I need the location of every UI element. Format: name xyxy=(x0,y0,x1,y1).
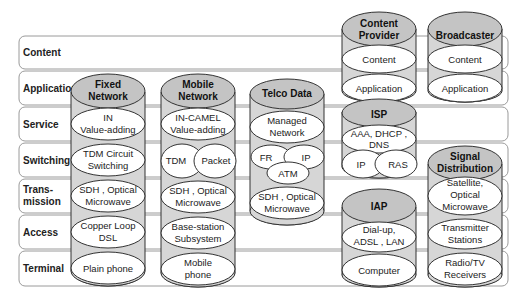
stack-iap: IAP Dial-up, ADSL , LAN Computer xyxy=(342,189,416,287)
stack-title: Signal xyxy=(450,151,480,162)
disc-text: Switching xyxy=(88,160,129,171)
disc-text: Dial-up, xyxy=(363,224,396,235)
disc-text: Copper Loop xyxy=(81,220,136,231)
disc-text: Subsystem xyxy=(175,233,222,244)
disc-text: Packet xyxy=(201,155,230,166)
stack-title: Fixed xyxy=(95,79,121,90)
disc-text: RAS xyxy=(388,159,408,170)
disc-text: SDH , Optical xyxy=(79,184,137,195)
disc-text: Value-adding xyxy=(80,124,135,135)
stack-title: ISP xyxy=(371,109,387,120)
layer-label-switching: Switching xyxy=(23,155,70,166)
stack-title-2: Network xyxy=(178,91,218,102)
disc-text: Application xyxy=(442,83,488,94)
stack-title-2: Provider xyxy=(359,30,400,41)
stack-signal-distribution: Signal Distribution Satellite, Optical M… xyxy=(428,146,502,287)
stack-mobile-network: Mobile Network IN-CAMEL Value-adding TDM… xyxy=(161,74,236,287)
disc-text: Managed xyxy=(267,115,307,126)
disc-text: SDH , Optical xyxy=(169,185,227,196)
layer-label-content: Content xyxy=(23,47,61,58)
stack-title: Content xyxy=(360,18,398,29)
disc-text: Network xyxy=(270,127,305,138)
disc-text: IN xyxy=(103,112,113,123)
disc-text: Content xyxy=(362,54,396,65)
disc-text: ADSL , LAN xyxy=(354,236,405,247)
disc-text: IP xyxy=(357,159,366,170)
layer-label-application: Application xyxy=(23,83,77,94)
network-layers-diagram: Content Application Service Switching Tr… xyxy=(0,0,527,306)
layer-label-transmission-2: mission xyxy=(23,196,61,207)
disc-text: Transmitter xyxy=(441,222,489,233)
stack-content-provider: Content Provider Content Application xyxy=(342,12,416,102)
disc-text: SDH , Optical xyxy=(258,191,316,202)
disc-text: DSL xyxy=(99,232,117,243)
layer-label-transmission-1: Trans- xyxy=(23,184,53,195)
stack-fixed-network: Fixed Network IN Value-adding TDM Circui… xyxy=(71,74,145,286)
disc-text: AAA, DHCP , xyxy=(351,128,407,139)
disc-text: Stations xyxy=(448,234,483,245)
disc-text: TDM xyxy=(166,155,187,166)
disc-text: Plain phone xyxy=(83,263,133,274)
layer-label-terminal: Terminal xyxy=(23,263,64,274)
disc-text: Radio/TV xyxy=(445,257,485,268)
layer-label-service: Service xyxy=(23,119,59,130)
stack-isp: ISP AAA, DHCP , DNS IP RAS xyxy=(342,99,417,178)
disc-text: DNS xyxy=(369,139,389,150)
disc-text: Microwave xyxy=(264,203,309,214)
disc-text: phone xyxy=(185,269,211,280)
disc-text: Microwave xyxy=(85,196,130,207)
disc-text: Optical xyxy=(450,189,480,200)
disc-text: Computer xyxy=(358,265,400,276)
disc-text: ATM xyxy=(278,168,297,179)
disc-text: Value-adding xyxy=(170,124,225,135)
disc-text: Mobile xyxy=(184,257,212,268)
stack-broadcaster: Broadcaster Content Application xyxy=(428,12,502,102)
stack-title: Mobile xyxy=(182,79,214,90)
disc-text: Satellite, xyxy=(447,177,483,188)
disc-text: FR xyxy=(260,152,273,163)
stack-title: IAP xyxy=(371,201,388,212)
disc-text: Microwave xyxy=(175,197,220,208)
disc-text: Microwave xyxy=(442,201,487,212)
stack-title-2: Distribution xyxy=(437,163,493,174)
disc-text: Content xyxy=(448,54,482,65)
stack-telco-data: Telco Data Managed Network FR IP ATM SDH… xyxy=(250,79,324,225)
stack-title-2: Network xyxy=(88,91,128,102)
stack-title: Telco Data xyxy=(262,88,312,99)
disc-text: Base-station xyxy=(172,221,225,232)
disc-text: IN-CAMEL xyxy=(175,112,220,123)
disc-text: IP xyxy=(302,152,311,163)
disc-text: Receivers xyxy=(444,269,486,280)
stack-title: Broadcaster xyxy=(436,30,494,41)
disc-text: Application xyxy=(356,83,402,94)
disc-text: TDM Circuit xyxy=(83,148,133,159)
layer-label-access: Access xyxy=(23,227,58,238)
